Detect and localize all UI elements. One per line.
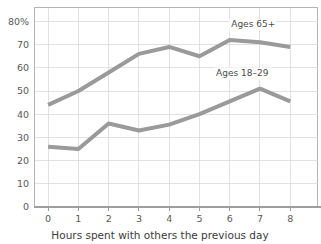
- series-label: Ages 18–29: [216, 68, 269, 78]
- x-axis-tick-label: 1: [75, 213, 81, 224]
- x-axis-tick-label: 5: [196, 213, 202, 224]
- chart-canvas: 01020304050607080% 012345678 Ages 65+Age…: [0, 0, 321, 244]
- y-axis-tick-label: 10: [17, 178, 29, 189]
- y-axis-tick-label: 40: [17, 109, 29, 120]
- x-axis-tick-label: 0: [45, 213, 51, 224]
- x-axis-tick-label: 6: [227, 213, 233, 224]
- plot-area: [35, 8, 318, 208]
- x-axis-tick-label: 4: [166, 213, 172, 224]
- y-axis-tick-label: 30: [17, 132, 29, 143]
- line-chart: 01020304050607080% 012345678 Ages 65+Age…: [0, 0, 321, 244]
- y-axis-tick-label: 80%: [8, 16, 29, 27]
- y-axis-tick-label: 0: [23, 201, 29, 212]
- x-axis-tick-label: 7: [257, 213, 263, 224]
- y-axis-tick-label: 60: [17, 62, 29, 73]
- series-label-group: Ages 18–29: [214, 67, 272, 79]
- y-axis-tick-label: 50: [17, 85, 29, 96]
- series-label-group: Ages 65+: [229, 19, 276, 31]
- x-axis-tick-label: 8: [287, 213, 293, 224]
- y-axis-tick-label: 70: [17, 39, 29, 50]
- x-axis-tick-label: 2: [106, 213, 112, 224]
- series-label: Ages 65+: [231, 19, 275, 29]
- x-axis-tick-label: 3: [136, 213, 142, 224]
- x-axis-title: Hours spent with others the previous day: [51, 229, 268, 241]
- y-axis-tick-label: 20: [17, 155, 29, 166]
